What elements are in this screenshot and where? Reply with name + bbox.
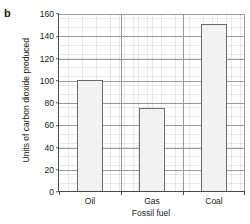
x-axis-tick-mark [183, 191, 184, 195]
y-axis-tick-labels: 020406080100120140160 [28, 14, 54, 192]
x-axis-tick-mark [244, 191, 245, 195]
bar-gas [139, 108, 165, 191]
y-axis-tick-label: 120 [28, 54, 54, 63]
y-axis-tick-label: 160 [28, 10, 54, 19]
panel-label: b [4, 8, 11, 19]
x-axis-tick-label: Gas [144, 197, 160, 206]
bar-oil [77, 80, 103, 191]
plot-area: OilGasCoal [58, 14, 244, 192]
bar-coal [201, 24, 227, 191]
x-gridline [183, 14, 184, 191]
y-axis-tick-label: 20 [28, 166, 54, 175]
y-axis-tick-label: 40 [28, 143, 54, 152]
x-gridline [121, 14, 122, 191]
x-axis-title: Fossil fuel [58, 209, 244, 218]
x-axis-tick-label: Coal [205, 197, 222, 206]
x-axis-tick-mark [59, 191, 60, 195]
y-gridline [59, 14, 244, 15]
x-axis-tick-mark [121, 191, 122, 195]
y-axis-tick-label: 0 [28, 188, 54, 197]
y-axis-tick-label: 60 [28, 121, 54, 130]
y-axis-tick-label: 100 [28, 77, 54, 86]
x-axis-tick-label: Oil [85, 197, 95, 206]
x-gridline [244, 14, 245, 191]
y-axis-tick-label: 80 [28, 99, 54, 108]
y-axis-tick-label: 140 [28, 32, 54, 41]
